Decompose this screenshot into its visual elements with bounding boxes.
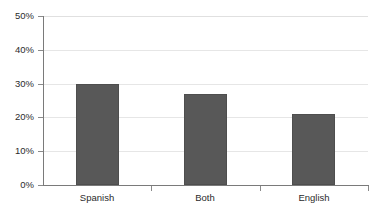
- y-axis-tick: [38, 185, 43, 186]
- x-axis-tick: [151, 186, 152, 191]
- y-axis-label: 40%: [0, 45, 34, 55]
- y-axis-tick: [38, 50, 43, 51]
- plot-area: [43, 16, 368, 185]
- bar-chart: 0%10%20%30%40%50% SpanishBothEnglish: [0, 0, 379, 217]
- y-axis-label: 20%: [0, 112, 34, 122]
- y-axis-line: [43, 16, 44, 186]
- x-axis-label: Spanish: [43, 192, 151, 203]
- y-axis-label: 0%: [0, 180, 34, 190]
- bar-spanish[interactable]: [76, 84, 119, 185]
- x-axis-tick: [368, 186, 369, 191]
- y-axis-label: 10%: [0, 146, 34, 156]
- x-axis-tick: [260, 186, 261, 191]
- x-axis-label: English: [260, 192, 368, 203]
- y-axis-tick: [38, 117, 43, 118]
- bar-both[interactable]: [184, 94, 227, 185]
- y-axis-tick: [38, 84, 43, 85]
- y-axis-tick: [38, 151, 43, 152]
- y-axis-label: 50%: [0, 11, 34, 21]
- bar-english[interactable]: [292, 114, 335, 185]
- gridline: [43, 16, 368, 17]
- y-axis-label: 30%: [0, 79, 34, 89]
- x-axis-line: [43, 185, 369, 186]
- gridline: [43, 50, 368, 51]
- x-axis-label: Both: [151, 192, 259, 203]
- y-axis-tick: [38, 16, 43, 17]
